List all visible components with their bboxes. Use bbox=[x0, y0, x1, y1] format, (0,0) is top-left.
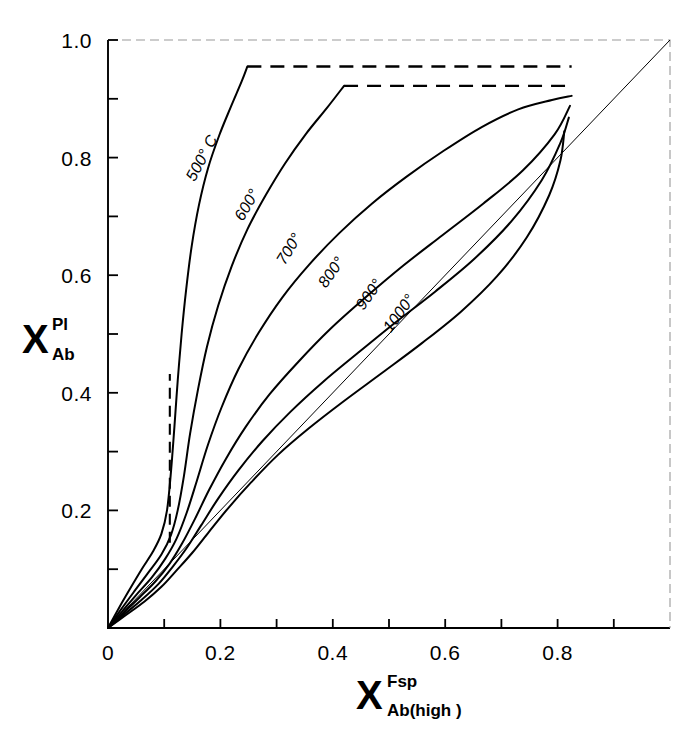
isotherm-curve-700 bbox=[108, 96, 572, 628]
y-tick-label: 1.0 bbox=[61, 29, 92, 52]
x-tick-label: 0.2 bbox=[205, 641, 236, 664]
isotherm-curve-800 bbox=[108, 106, 570, 628]
x-axis-ticks bbox=[164, 619, 614, 628]
y-tick-label: 0.6 bbox=[61, 264, 92, 287]
y-axis-title-superscript: Pl bbox=[52, 315, 68, 334]
x-axis-title: X Fsp Ab(high ) bbox=[356, 672, 462, 720]
y-tick-label: 0.2 bbox=[61, 499, 92, 522]
figure-canvas: 00.20.40.60.8 0.20.40.60.81.0 500° C600°… bbox=[0, 0, 696, 756]
x-axis-title-subscript: Ab(high ) bbox=[387, 701, 462, 720]
x-tick-label: 0.8 bbox=[542, 641, 573, 664]
binary-loop-plot: 00.20.40.60.8 0.20.40.60.81.0 500° C600°… bbox=[0, 0, 696, 756]
y-axis-title-subscript: Ab bbox=[52, 345, 75, 364]
isotherm-label-900: 900° bbox=[352, 275, 386, 312]
y-axis-tick-labels: 0.20.40.60.81.0 bbox=[61, 29, 92, 522]
y-tick-label: 0.4 bbox=[61, 382, 92, 405]
isotherm-label-600: 600° bbox=[231, 186, 263, 224]
isotherm-curve-600 bbox=[108, 86, 344, 628]
isotherm-label-500: 500° C bbox=[182, 132, 220, 184]
isotherm-curves bbox=[108, 66, 572, 628]
x-tick-label: 0 bbox=[102, 641, 114, 664]
isotherm-label-800: 800° bbox=[315, 253, 348, 290]
isotherm-label-1000: 1000° bbox=[379, 291, 418, 335]
y-axis-title: X Pl Ab bbox=[22, 315, 75, 364]
y-axis-ticks bbox=[108, 40, 118, 569]
y-tick-label: 0.8 bbox=[61, 147, 92, 170]
x-axis-title-base: X bbox=[356, 673, 383, 717]
y-axis-title-base: X bbox=[22, 317, 49, 361]
x-axis-title-superscript: Fsp bbox=[387, 672, 417, 691]
x-axis-tick-labels: 00.20.40.60.8 bbox=[102, 641, 573, 664]
isotherm-plateau-extensions bbox=[247, 66, 571, 85]
isotherm-label-700: 700° bbox=[273, 230, 305, 268]
x-tick-label: 0.6 bbox=[430, 641, 461, 664]
x-tick-label: 0.4 bbox=[317, 641, 348, 664]
isotherm-curve-500 bbox=[108, 66, 247, 628]
